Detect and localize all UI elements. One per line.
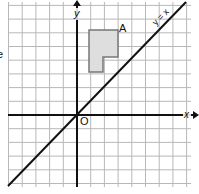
line-label: y = x — [150, 6, 171, 27]
x-axis-arrow-icon — [193, 111, 199, 119]
shape-a-label: A — [119, 22, 127, 34]
origin-label: O — [80, 115, 89, 127]
cut-off-margin-text: e — [0, 48, 3, 60]
y-axis-arrow-icon — [73, 0, 81, 6]
shape-a — [89, 30, 118, 72]
y-axis-label: y — [73, 7, 81, 19]
x-axis-label: x — [183, 109, 190, 120]
coordinate-diagram: y x O A y = x e — [0, 0, 199, 194]
